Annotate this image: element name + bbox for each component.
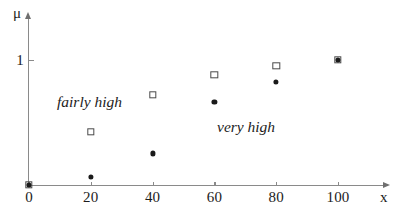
data-point-square: [272, 62, 279, 69]
y-axis-arrow-icon: [25, 12, 31, 19]
x-tick-label: 60: [207, 189, 222, 206]
x-tick-mark: [276, 182, 277, 185]
x-tick-label: 40: [145, 189, 160, 206]
data-point-dot: [274, 80, 279, 85]
data-point-dot: [212, 100, 217, 105]
y-axis-title: μ: [13, 5, 21, 22]
annotation-very-high: very high: [217, 118, 275, 136]
x-axis-arrow-icon: [383, 182, 390, 188]
x-axis-title: x: [380, 189, 388, 206]
y-tick-label: 1: [8, 52, 24, 69]
y-axis-line: [28, 17, 29, 186]
data-point-square: [87, 128, 94, 135]
y-tick-mark: [29, 60, 34, 61]
scatter-chart: μ x 0 20 40 60 80 100 1 fairly high very…: [0, 0, 402, 220]
x-tick-mark: [338, 182, 339, 185]
data-point-dot: [150, 151, 155, 156]
x-tick-label: 100: [326, 189, 349, 206]
x-axis-line: [29, 185, 385, 186]
x-tick-label: 0: [25, 189, 33, 206]
x-tick-label: 80: [268, 189, 283, 206]
x-tick-mark: [91, 182, 92, 185]
data-point-square: [149, 91, 156, 98]
x-tick-mark: [153, 182, 154, 185]
data-point-square: [211, 71, 218, 78]
data-point-dot: [88, 175, 93, 180]
annotation-fairly-high: fairly high: [57, 93, 122, 111]
x-tick-label: 20: [83, 189, 98, 206]
x-tick-mark: [214, 182, 215, 185]
